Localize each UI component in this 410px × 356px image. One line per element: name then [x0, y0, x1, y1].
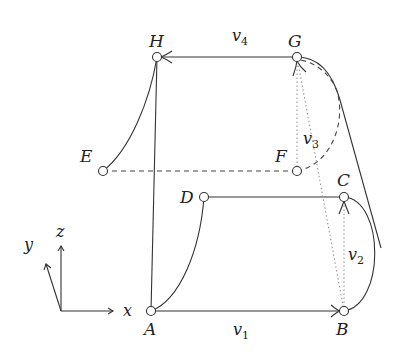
edge-label-v2: v2 — [348, 245, 364, 267]
vertex-label-b: B — [335, 319, 349, 339]
v2-sub: 2 — [357, 254, 364, 267]
y-axis-label: y — [23, 235, 34, 254]
vertex-e — [99, 167, 108, 176]
axes: x z y — [23, 222, 132, 320]
vertex-h — [153, 53, 162, 62]
arrowhead-g — [293, 61, 306, 76]
v3-sub: 3 — [312, 138, 319, 151]
v1-sub: 1 — [242, 329, 249, 342]
v4-sub: 4 — [241, 35, 248, 48]
vertex-label-c: C — [337, 170, 350, 190]
z-axis-label: z — [55, 222, 65, 241]
vertex-labels: A B C D E F G H — [79, 31, 350, 339]
edge-h-a — [151, 57, 157, 311]
vertex-label-f: F — [274, 146, 288, 166]
v4-main: v — [232, 26, 241, 45]
edge-label-v1: v1 — [233, 320, 249, 342]
cube-graph-diagram: x z y A B C D E F G H v1 v2 v3 v4 — [0, 0, 410, 356]
vertex-g — [293, 53, 302, 62]
vertex-d — [200, 193, 209, 202]
vertex-label-d: D — [179, 187, 194, 207]
vertex-b — [340, 307, 349, 316]
edge-label-v4: v4 — [232, 26, 248, 48]
vertex-label-h: H — [148, 31, 165, 51]
vertex-label-a: A — [142, 319, 156, 339]
edge-label-v3: v3 — [303, 129, 319, 151]
edge-a-d — [151, 197, 204, 311]
vertices — [99, 53, 349, 316]
edge-h-e — [103, 57, 157, 171]
v2-main: v — [348, 245, 357, 264]
v3-main: v — [303, 129, 312, 148]
y-axis — [46, 264, 61, 311]
vertex-a — [147, 307, 156, 316]
vertex-f — [293, 167, 302, 176]
vertex-label-e: E — [79, 146, 93, 166]
x-axis-label: x — [123, 301, 132, 320]
v1-main: v — [233, 320, 242, 339]
vertex-label-g: G — [288, 31, 302, 51]
vertex-c — [340, 193, 349, 202]
edge-f-g-curve — [297, 60, 340, 171]
